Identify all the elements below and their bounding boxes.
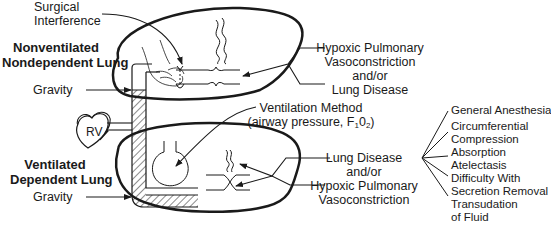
ventilation-method-line-2: (airway pressure, F102) — [246, 115, 376, 133]
lower-wavy-vessel-icon — [226, 150, 233, 172]
factor-line: Atelectasis — [451, 159, 507, 172]
lower-causes-line-2: and/or — [294, 165, 434, 179]
ventilation-method-line-1: Ventilation Method — [246, 101, 376, 115]
ventilated-lung-line-1: Ventilated — [10, 157, 100, 172]
lower-causes-line-1: Lung Disease — [294, 151, 434, 165]
factor-line: of Fluid — [451, 211, 518, 224]
factor-circumferential-compression: Circumferential Compression — [451, 120, 528, 146]
lower-causes-label: Lung Disease and/or Hypoxic Pulmonary Va… — [294, 151, 434, 207]
lower-constricted-vessel-icon — [206, 175, 250, 190]
upper-causes-line-1: Hypoxic Pulmonary — [300, 41, 440, 55]
factor-general-anesthesia: General Anesthesia — [451, 104, 551, 117]
factor-line: Absorption — [451, 146, 507, 159]
upper-wavy-vessel-icon — [216, 18, 226, 64]
factor-line: Difficulty With — [451, 172, 548, 185]
surgical-interference-line-1: Surgical — [34, 0, 101, 14]
factor-line: Secretion Removal — [451, 185, 548, 198]
surgeon-hand-icon — [142, 40, 184, 86]
factor-line: Transudation — [451, 198, 518, 211]
factor-line: General Anesthesia — [451, 104, 551, 117]
factor-transudation-of-fluid: Transudation of Fluid — [451, 198, 518, 224]
factor-line: Compression — [451, 133, 528, 146]
factor-line: Circumferential — [451, 120, 528, 133]
upper-causes-label: Hypoxic Pulmonary Vasoconstriction and/o… — [300, 41, 440, 97]
lower-causes-line-3: Hypoxic Pulmonary — [294, 179, 434, 193]
nonventilated-lung-line-2: Nondependent Lung — [2, 55, 110, 70]
ventilated-lung-label: Ventilated Dependent Lung — [10, 157, 100, 187]
right-ventricle-heart-icon — [77, 112, 132, 148]
upper-causes-line-4: Lung Disease — [300, 83, 440, 97]
ventilated-lung-line-2: Dependent Lung — [10, 172, 100, 187]
ventilation-method-label: Ventilation Method (airway pressure, F10… — [246, 101, 376, 133]
factor-absorption-atelectasis: Absorption Atelectasis — [451, 146, 507, 172]
ventilation-method-close: ) — [370, 115, 374, 129]
alveolus-icon — [152, 141, 188, 186]
ventilation-method-text: (airway pressure, F — [247, 115, 354, 129]
lower-causes-line-4: Vasoconstriction — [294, 193, 434, 207]
fio2-o: 0 — [359, 115, 366, 129]
rv-label: RV — [86, 125, 102, 139]
nonventilated-lung-label: Nonventilated Nondependent Lung — [2, 40, 110, 70]
gravity-top-label: Gravity — [33, 83, 73, 97]
nonventilated-lung-line-1: Nonventilated — [2, 40, 110, 55]
upper-causes-line-3: and/or — [300, 69, 440, 83]
surgical-interference-label: Surgical Interference — [34, 0, 101, 28]
upper-airway-icon — [176, 66, 240, 88]
upper-causes-line-2: Vasoconstriction — [300, 55, 440, 69]
surgical-interference-line-2: Interference — [34, 14, 101, 28]
factor-secretion-removal: Difficulty With Secretion Removal — [451, 172, 548, 198]
gravity-bottom-label: Gravity — [33, 190, 73, 204]
